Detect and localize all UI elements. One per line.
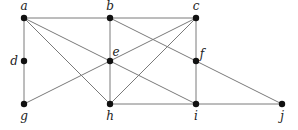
edge-a-e <box>24 18 110 61</box>
node-label-c: c <box>193 0 200 13</box>
node-label-j: j <box>277 109 284 123</box>
edge-g-e <box>24 61 110 104</box>
edge-f-j <box>196 61 282 104</box>
node-label-b: b <box>106 0 114 13</box>
node-g <box>21 101 27 107</box>
node-b <box>107 15 113 21</box>
node-label-g: g <box>20 109 28 123</box>
edge-a-h <box>24 18 110 104</box>
node-a <box>21 15 27 21</box>
node-c <box>193 15 199 21</box>
graph-diagram: abcdefghij <box>0 0 298 130</box>
node-label-h: h <box>106 109 114 123</box>
node-label-f: f <box>199 47 207 61</box>
node-d <box>21 58 27 64</box>
node-f <box>193 58 199 64</box>
node-h <box>107 101 113 107</box>
node-j <box>279 101 285 107</box>
node-i <box>193 101 199 107</box>
edge-c-h <box>110 18 196 104</box>
edge-e-i <box>110 61 196 104</box>
edges <box>24 18 282 104</box>
node-label-a: a <box>20 0 27 13</box>
node-label-e: e <box>112 45 119 59</box>
node-label-i: i <box>194 109 198 123</box>
node-label-d: d <box>10 54 18 68</box>
